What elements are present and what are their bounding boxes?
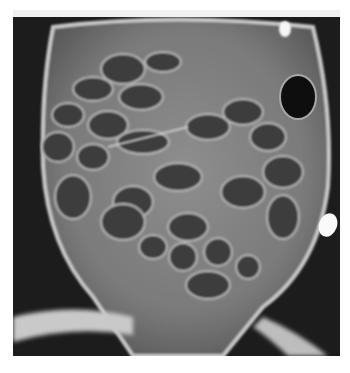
marker-top xyxy=(279,21,291,37)
gas-bubble xyxy=(280,75,316,119)
xray-image xyxy=(13,17,340,356)
top-edge-strip xyxy=(13,10,340,17)
xray-svg xyxy=(13,17,340,356)
